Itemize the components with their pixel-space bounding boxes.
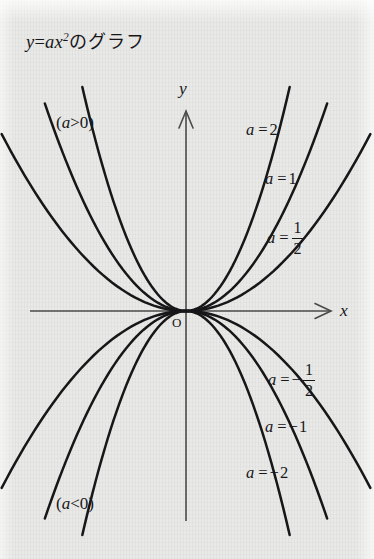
fraction: 12	[303, 362, 315, 399]
plot-canvas	[0, 0, 374, 559]
minus-sign: −	[289, 419, 298, 436]
fraction-numerator: 1	[292, 220, 304, 236]
origin-label: O	[172, 316, 181, 329]
region-relation: <	[70, 494, 80, 513]
curve-label-a-neg-half: a=−12	[268, 362, 315, 399]
region-label-negative: (a<0)	[56, 495, 94, 512]
minus-sign: −	[292, 372, 301, 389]
fraction-denominator: 2	[303, 383, 315, 399]
equals-sign: =	[258, 465, 267, 482]
coefficient-value: 2	[270, 122, 278, 139]
coefficient-symbol: a	[246, 122, 254, 139]
equals-sign: =	[277, 171, 286, 188]
equals-sign: =	[258, 122, 267, 139]
curve-label-a1: a=1	[265, 171, 297, 188]
fraction-numerator: 1	[303, 362, 315, 378]
minus-sign: −	[270, 465, 279, 482]
fraction-denominator: 2	[292, 241, 304, 257]
equals-sign: =	[279, 230, 288, 247]
curve-label-a-neg2: a=−2	[246, 465, 288, 482]
coefficient-value: 2	[280, 465, 288, 482]
fraction-bar	[303, 380, 315, 381]
fraction: 12	[292, 220, 304, 257]
region-var: a	[62, 113, 71, 132]
y-axis-label: y	[179, 80, 187, 98]
coefficient-value: 1	[289, 171, 297, 188]
x-axis-label: x	[340, 302, 348, 320]
curve-label-a-half: a=12	[267, 220, 304, 257]
fraction-bar	[292, 238, 304, 239]
curve-label-a2: a=2	[246, 122, 278, 139]
region-value: 0	[80, 113, 89, 132]
region-value: 0	[80, 494, 89, 513]
region-label-positive: (a>0)	[56, 114, 94, 131]
equals-sign: =	[277, 419, 286, 436]
coefficient-symbol: a	[265, 419, 273, 436]
coefficient-symbol: a	[265, 171, 273, 188]
paren-close: )	[88, 494, 94, 513]
coefficient-value: 1	[299, 419, 307, 436]
region-var: a	[62, 494, 71, 513]
equals-sign: =	[280, 372, 289, 389]
coefficient-symbol: a	[268, 372, 276, 389]
paren-close: )	[88, 113, 94, 132]
parabola-figure: y=ax2のグラフ y x O (a>0) (a<0) a=2 a=1 a=12…	[0, 0, 374, 559]
region-relation: >	[70, 113, 80, 132]
coefficient-symbol: a	[267, 230, 275, 247]
curve-label-a-neg1: a=−1	[265, 419, 307, 436]
coefficient-symbol: a	[246, 465, 254, 482]
